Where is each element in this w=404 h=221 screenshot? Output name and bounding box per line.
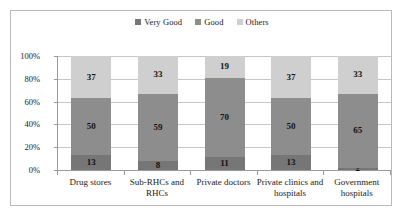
bar-value-label: 59 <box>153 123 162 132</box>
y-axis-tick-label: 0% <box>0 166 40 175</box>
bar-value-label: 50 <box>87 122 96 131</box>
bar-value-label: 65 <box>353 126 362 135</box>
y-axis-tick-mark <box>54 79 58 80</box>
bar-segment[interactable]: 70 <box>205 78 245 158</box>
legend-swatch-icon <box>237 19 243 25</box>
y-axis-tick-mark <box>54 56 58 57</box>
x-axis-category-label: Government hospitals <box>319 177 395 199</box>
bar-segment[interactable]: 37 <box>271 56 311 98</box>
x-axis-tick-mark <box>57 171 58 175</box>
bar-value-label: 33 <box>353 70 362 79</box>
bar-value-label: 33 <box>153 70 162 79</box>
chart-legend: Very GoodGoodOthers <box>0 15 404 29</box>
bar-column[interactable]: 135037 <box>71 56 111 170</box>
x-axis-labels: Drug storesSub-RHCs and RHCsPrivate doct… <box>57 171 390 207</box>
legend-item-label: Very Good <box>144 18 182 27</box>
legend-item-good[interactable]: Good <box>195 18 223 27</box>
y-axis-tick-label: 100% <box>0 52 40 61</box>
legend-item-label: Good <box>204 18 223 27</box>
bar-value-label: 50 <box>287 122 296 131</box>
bar-segment[interactable]: 37 <box>71 56 111 98</box>
x-axis-tick-mark <box>323 171 324 175</box>
y-axis-tick-mark <box>54 147 58 148</box>
x-axis-category-label: Private clinics and hospitals <box>252 177 328 199</box>
legend-swatch-icon <box>135 19 141 25</box>
bar-segment[interactable]: 13 <box>71 155 111 170</box>
legend-swatch-icon <box>195 19 201 25</box>
bar-column[interactable]: 85933 <box>138 56 178 170</box>
bar-segment[interactable]: 8 <box>138 161 178 170</box>
bar-segment[interactable]: 19 <box>205 56 245 78</box>
plot-area: 100%80%60%40%20%0%1350378593311701913503… <box>57 56 391 171</box>
x-axis-category-label: Sub-RHCs and RHCs <box>119 177 195 199</box>
bar-segment[interactable]: 33 <box>138 56 178 94</box>
bar-value-label: 8 <box>156 161 161 170</box>
bar-value-label: 19 <box>220 62 229 71</box>
bar-segment[interactable]: 2 <box>338 168 378 170</box>
bar-value-label: 37 <box>287 73 296 82</box>
y-axis-tick-mark <box>54 102 58 103</box>
bar-segment[interactable]: 50 <box>71 98 111 155</box>
legend-item-others[interactable]: Others <box>237 18 269 27</box>
x-axis-category-label: Drug stores <box>52 177 128 188</box>
y-axis-tick-label: 60% <box>0 97 40 106</box>
legend-item-very-good[interactable]: Very Good <box>135 18 182 27</box>
bar-value-label: 11 <box>220 159 229 168</box>
x-axis-tick-mark <box>124 171 125 175</box>
bar-column[interactable]: 135037 <box>271 56 311 170</box>
bar-value-label: 13 <box>287 158 296 167</box>
bar-segment[interactable]: 65 <box>338 94 378 168</box>
bar-segment[interactable]: 50 <box>271 98 311 155</box>
bar-segment[interactable]: 13 <box>271 155 311 170</box>
y-axis-tick-label: 40% <box>0 120 40 129</box>
bar-segment[interactable]: 11 <box>205 157 245 170</box>
y-axis-tick-mark <box>54 124 58 125</box>
x-axis-tick-mark <box>257 171 258 175</box>
legend-item-label: Others <box>246 18 269 27</box>
y-axis-tick-label: 20% <box>0 143 40 152</box>
bar-segment[interactable]: 33 <box>338 56 378 94</box>
x-axis-tick-mark <box>190 171 191 175</box>
x-axis-tick-mark <box>390 171 391 175</box>
chart-figure: Very GoodGoodOthers 100%80%60%40%20%0%13… <box>0 0 404 221</box>
bar-column[interactable]: 117019 <box>205 56 245 170</box>
y-axis-tick-label: 80% <box>0 74 40 83</box>
bar-value-label: 70 <box>220 113 229 122</box>
bar-value-label: 37 <box>87 73 96 82</box>
bar-value-label: 13 <box>87 158 96 167</box>
x-axis-category-label: Private doctors <box>186 177 262 188</box>
bar-column[interactable]: 26533 <box>338 56 378 170</box>
bar-segment[interactable]: 59 <box>138 94 178 161</box>
